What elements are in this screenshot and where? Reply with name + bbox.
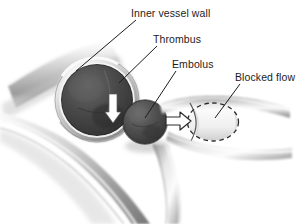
illustration-figure: Inner vessel wall Thrombus Embolus Block… xyxy=(0,0,307,224)
label-blocked-flow: Blocked flow xyxy=(235,71,295,83)
label-embolus: Embolus xyxy=(172,58,214,70)
label-thrombus: Thrombus xyxy=(153,33,201,45)
label-inner-vessel-wall: Inner vessel wall xyxy=(131,7,210,19)
branch-vessel xyxy=(152,132,294,224)
leader-thrombus xyxy=(119,46,157,83)
blocked-flow-region xyxy=(186,100,240,145)
flow-arrow-icon xyxy=(166,112,191,130)
thrombus-mass xyxy=(61,64,133,136)
